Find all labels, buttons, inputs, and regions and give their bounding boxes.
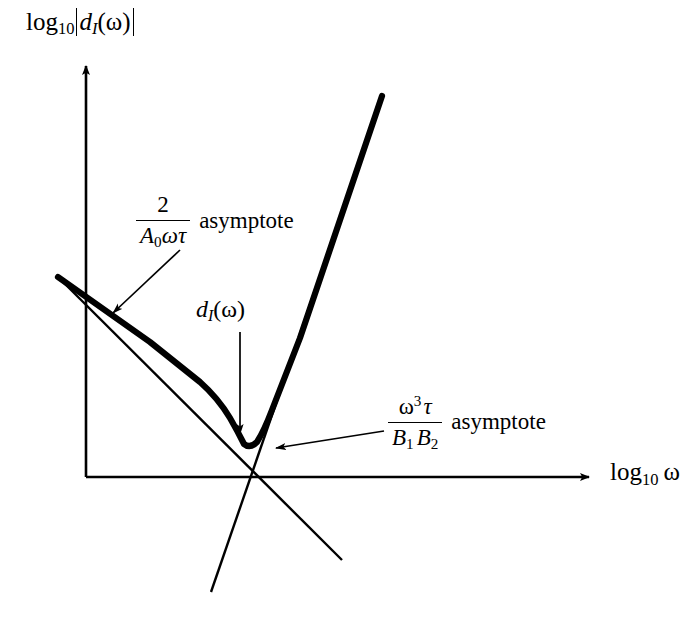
abs-bar-open	[76, 8, 77, 36]
x-axis-log-text: log	[610, 458, 642, 485]
response-curve	[58, 96, 382, 446]
figure-container: log10dI(ω) log10ω dI(ω) 2 A0ωτ asymptote…	[0, 0, 695, 617]
y-axis-log-text: log	[26, 8, 58, 35]
low-frequency-asymptote-word: asymptote	[192, 209, 294, 233]
high-frequency-denominator-variable-2: B	[414, 425, 431, 450]
x-axis-log-base: 10	[642, 470, 659, 489]
y-axis-variable: d	[79, 8, 92, 35]
low-frequency-denominator-rest: ωτ	[162, 223, 186, 248]
high-frequency-denominator-subscript-2: 2	[431, 435, 439, 452]
high-frequency-asymptote-pointer	[276, 431, 384, 448]
curve-label-variable: d	[196, 296, 208, 322]
curve-label-argument: (ω)	[213, 296, 245, 322]
high-frequency-fraction: ω3τ B1B2	[388, 392, 442, 452]
low-frequency-denominator: A0ωτ	[136, 221, 190, 251]
low-frequency-asymptote-label: 2 A0ωτ asymptote	[134, 192, 294, 251]
low-frequency-numerator: 2	[136, 192, 190, 221]
high-frequency-denominator-subscript-1: 1	[406, 435, 414, 452]
high-frequency-denominator: B1B2	[388, 423, 442, 453]
y-axis-argument: (ω)	[97, 8, 130, 35]
high-frequency-asymptote-label: ω3τ B1B2 asymptote	[386, 392, 546, 452]
plot-canvas	[0, 0, 695, 617]
low-frequency-denominator-variable: A	[140, 223, 154, 248]
x-axis-label: log10ω	[610, 459, 680, 488]
high-frequency-numerator: ω3τ	[388, 392, 442, 423]
low-frequency-asymptote-pointer	[113, 250, 180, 313]
high-frequency-numerator-variable: ω	[399, 394, 414, 419]
low-frequency-fraction: 2 A0ωτ	[136, 192, 190, 251]
curve-label: dI(ω)	[196, 297, 245, 325]
high-frequency-numerator-rest: τ	[421, 394, 431, 419]
high-frequency-asymptote-word: asymptote	[444, 410, 546, 434]
low-frequency-denominator-subscript: 0	[154, 233, 162, 250]
x-axis-variable: ω	[658, 458, 679, 485]
y-axis-label: log10dI(ω)	[26, 8, 136, 37]
y-axis-log-base: 10	[58, 19, 75, 38]
high-frequency-denominator-variable-1: B	[392, 425, 406, 450]
abs-bar-close	[133, 8, 134, 36]
